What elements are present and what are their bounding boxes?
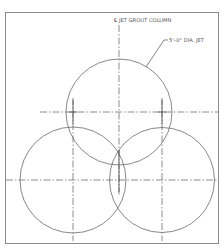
diameter-leader-line <box>146 40 168 67</box>
diameter-label: 5'–0" DIA. JET <box>169 37 205 44</box>
drawing-frame <box>6 13 219 244</box>
centerline-label: ℄ JET GROUT COLUMN <box>113 17 172 24</box>
jet-grout-diagram: ℄ JET GROUT COLUMN 5'–0" DIA. JET <box>0 0 224 250</box>
